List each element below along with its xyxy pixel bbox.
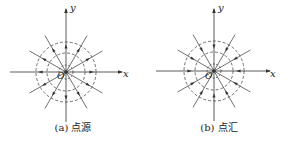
- flow-arrow: [187, 70, 191, 73]
- x-axis-label: x: [123, 68, 129, 79]
- flow-arrow: [190, 82, 195, 85]
- flow-arrow: [42, 82, 47, 85]
- caption-point-source: (a) 点源: [0, 119, 146, 134]
- flow-arrow: [89, 71, 93, 74]
- flow-arrow: [225, 47, 228, 52]
- flow-arrow: [225, 90, 228, 95]
- flow-arrow: [236, 70, 240, 73]
- flow-arrow: [65, 44, 68, 48]
- x-axis-label: x: [270, 68, 276, 79]
- flow-arrow: [52, 48, 55, 53]
- origin-label: O: [57, 71, 64, 81]
- flow-arrow: [65, 95, 68, 99]
- panel-point-sink: y x O (b) 点汇: [146, 0, 292, 145]
- flow-arrow: [199, 47, 202, 52]
- y-axis-label: y: [218, 2, 224, 13]
- panel-point-source: y x O (a) 点源: [0, 0, 146, 145]
- flow-arrow: [86, 58, 91, 61]
- flow-arrow: [52, 92, 55, 97]
- flow-arrow: [76, 92, 79, 97]
- flow-arrow: [76, 48, 79, 53]
- flow-arrow: [199, 90, 202, 95]
- flow-arrow: [86, 82, 91, 85]
- flow-arrow: [38, 71, 42, 74]
- caption-point-sink: (b) 点汇: [146, 119, 292, 134]
- flow-arrow: [233, 82, 238, 85]
- y-axis-label: y: [70, 2, 76, 13]
- flow-arrow: [190, 56, 195, 59]
- flow-arrow: [213, 93, 216, 97]
- flow-arrow: [42, 58, 47, 61]
- origin-label: O: [205, 71, 212, 81]
- flow-arrow: [233, 56, 238, 59]
- flow-arrow: [213, 44, 216, 48]
